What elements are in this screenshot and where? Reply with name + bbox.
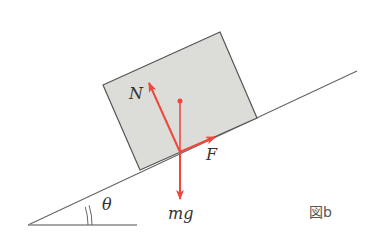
weight-label: mg xyxy=(168,206,193,222)
figure-caption: 図b xyxy=(309,205,332,219)
center-of-mass-dot xyxy=(178,99,183,104)
inclined-plane-diagram xyxy=(0,0,377,235)
angle-arc xyxy=(85,207,88,225)
angle-arc-inner xyxy=(89,205,92,225)
friction-force-label: F xyxy=(206,147,217,163)
normal-force-label: N xyxy=(129,86,143,102)
angle-label: θ xyxy=(102,197,112,213)
